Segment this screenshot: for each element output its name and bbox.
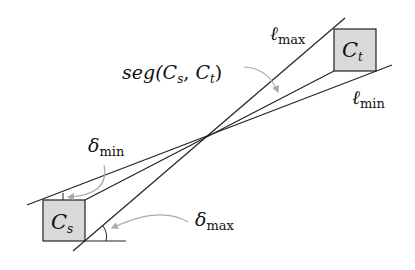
label-l-min: ℓmin	[352, 88, 385, 107]
arrow-delta-max	[112, 215, 188, 228]
diagram: ℓmax ℓmin seg(Cs, Ct) δmin δmax Cs Ct	[0, 0, 415, 270]
label-delta-min: δmin	[88, 136, 124, 155]
label-delta-max: δmax	[195, 210, 234, 229]
label-seg: seg(Cs, Ct)	[122, 63, 222, 82]
label-cs: Cs	[51, 212, 73, 233]
label-l-max: ℓmax	[270, 24, 305, 43]
label-ct: Ct	[342, 40, 363, 61]
angle-arc-max	[103, 226, 107, 241]
